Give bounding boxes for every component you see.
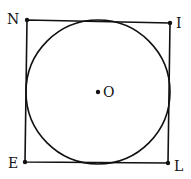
point-n: [25, 18, 29, 22]
label-i: I: [176, 15, 182, 31]
point-l: [166, 161, 170, 165]
label-l: L: [174, 158, 183, 174]
label-e: E: [8, 155, 18, 171]
point-i: [168, 21, 172, 25]
point-e: [23, 160, 27, 164]
geometry-diagram: N I E L O: [0, 0, 191, 179]
label-o: O: [103, 84, 114, 100]
point-o: [96, 90, 100, 94]
label-n: N: [7, 11, 19, 27]
